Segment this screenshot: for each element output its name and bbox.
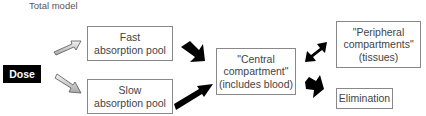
- arrow-central-peripheral-icon: [305, 42, 327, 62]
- arrow-dose-to-slow-icon: [55, 74, 81, 93]
- arrow-slow-to-central-icon: [174, 84, 213, 110]
- arrow-dose-to-fast-icon: [54, 41, 81, 55]
- arrow-central-to-elimination-icon: [305, 75, 324, 98]
- arrow-fast-to-central-icon: [181, 41, 205, 62]
- arrows-layer: [0, 0, 426, 116]
